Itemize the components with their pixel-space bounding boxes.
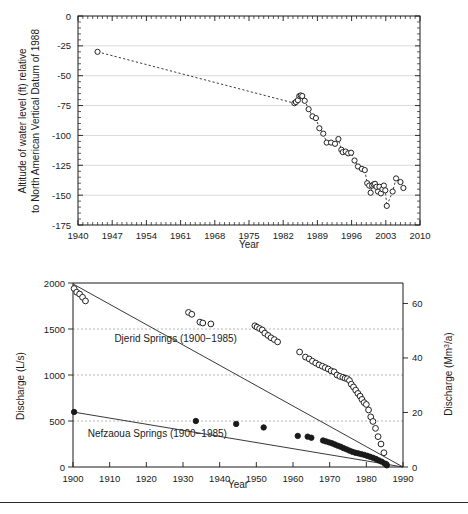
x-tick-label: 1954 bbox=[136, 230, 157, 241]
data-point-marker bbox=[373, 425, 379, 431]
gridlines-horizontal bbox=[78, 46, 420, 195]
x-tick-label: 1900 bbox=[62, 473, 83, 484]
data-point-marker bbox=[401, 185, 406, 190]
figure-container: 1940194719541961196819751982198919962003… bbox=[0, 0, 468, 514]
data-point-marker bbox=[368, 190, 373, 195]
y-tick-label-right: 40 bbox=[412, 352, 423, 363]
data-point-marker bbox=[189, 311, 195, 317]
y-tick-label: -125 bbox=[52, 160, 71, 171]
data-point-marker bbox=[295, 433, 300, 438]
y-tick-label-left: 0 bbox=[60, 462, 65, 473]
x-axis-ticks bbox=[73, 462, 403, 467]
data-point-marker bbox=[261, 425, 266, 430]
y-tick-label-left: 1500 bbox=[44, 324, 65, 335]
y-tick-label: -75 bbox=[57, 100, 71, 111]
bottom-divider-rule bbox=[0, 502, 468, 503]
y-axis-left-ticks bbox=[68, 283, 73, 467]
x-tick-label: 1961 bbox=[170, 230, 191, 241]
y-tick-label: -50 bbox=[57, 70, 71, 81]
data-point-marker bbox=[375, 434, 381, 440]
y-tick-label-right: 0 bbox=[412, 462, 417, 473]
data-point-marker bbox=[233, 421, 238, 426]
spring-discharge-svg: 1900191019201930194019501960197019801990… bbox=[0, 256, 468, 496]
y-tick-label: 0 bbox=[66, 11, 71, 22]
data-point-marker bbox=[366, 407, 372, 413]
y-axis-right-tick-labels: 0204060 bbox=[412, 298, 423, 473]
water-level-chart: 1940194719541961196819751982198919962003… bbox=[0, 0, 468, 256]
trend-lines bbox=[73, 284, 403, 467]
x-tick-label: 1920 bbox=[136, 473, 157, 484]
data-point-marker bbox=[352, 158, 357, 163]
data-point-marker bbox=[71, 409, 76, 414]
x-tick-label: 1980 bbox=[356, 473, 377, 484]
data-point-marker bbox=[297, 349, 303, 355]
y-axis-title-line2: to North American Vertical Datum of 1988 bbox=[30, 29, 41, 213]
data-point-marker bbox=[362, 167, 367, 172]
y-tick-labels: 0-25-50-75-100-125-150-175 bbox=[52, 11, 71, 231]
data-point-marker bbox=[306, 107, 311, 112]
x-tick-label: 1960 bbox=[282, 473, 303, 484]
data-point-marker bbox=[390, 189, 395, 194]
data-point-marker bbox=[336, 136, 341, 141]
x-tick-label: 1947 bbox=[102, 230, 123, 241]
series-connector-line bbox=[98, 52, 404, 206]
data-point-marker bbox=[384, 203, 389, 208]
series-annotation-label: Nefzaoua Springs (1900−1985) bbox=[88, 428, 227, 439]
x-tick-label: 1940 bbox=[67, 230, 88, 241]
x-tick-label: 2010 bbox=[409, 230, 430, 241]
spring-discharge-chart: 1900191019201930194019501960197019801990… bbox=[0, 256, 468, 496]
y-tick-label: -100 bbox=[52, 130, 71, 141]
data-point-marker bbox=[332, 141, 337, 146]
data-point-marker bbox=[381, 450, 387, 456]
data-point-marker bbox=[313, 116, 318, 121]
x-tick-label: 1989 bbox=[307, 230, 328, 241]
x-axis-title: Year bbox=[228, 479, 249, 490]
water-level-svg: 1940194719541961196819751982198919962003… bbox=[0, 0, 468, 256]
data-series-discharge bbox=[71, 286, 389, 468]
x-tick-label: 1910 bbox=[99, 473, 120, 484]
y-tick-label-left: 1000 bbox=[44, 370, 65, 381]
data-point-marker bbox=[398, 179, 403, 184]
data-point-marker bbox=[363, 402, 369, 408]
x-tick-label: 1950 bbox=[246, 473, 267, 484]
x-tick-label: 1930 bbox=[172, 473, 193, 484]
y-tick-label-left: 2000 bbox=[44, 278, 65, 289]
y-axis-left-tick-labels: 0500100015002000 bbox=[44, 278, 65, 473]
y-tick-label: -25 bbox=[57, 40, 71, 51]
data-point-marker bbox=[95, 49, 100, 54]
data-point-marker bbox=[200, 320, 206, 326]
y-tick-label: -175 bbox=[52, 220, 71, 231]
data-point-marker bbox=[370, 419, 376, 425]
data-point-marker bbox=[349, 150, 354, 155]
series-annotation-label: Djerid Springs (1900−1985) bbox=[114, 333, 237, 344]
x-tick-label: 1990 bbox=[392, 473, 413, 484]
x-tick-label: 1968 bbox=[204, 230, 225, 241]
data-point-marker bbox=[321, 131, 326, 136]
y-axis-right-title: Discharge (Mm3/a) bbox=[443, 332, 455, 415]
x-tick-label: 1982 bbox=[273, 230, 294, 241]
x-axis-title: Year bbox=[239, 239, 260, 250]
data-point-marker bbox=[393, 176, 398, 181]
data-point-marker bbox=[309, 435, 314, 440]
y-axis-right-ticks bbox=[403, 303, 408, 467]
y-tick-label: -150 bbox=[52, 190, 71, 201]
data-point-marker bbox=[384, 463, 389, 468]
data-point-marker bbox=[378, 441, 384, 447]
y-axis-left-title: Discharge (L/s) bbox=[15, 352, 26, 420]
data-point-marker bbox=[317, 126, 322, 131]
data-series-water-level bbox=[95, 49, 406, 208]
series-annotations: Djerid Springs (1900−1985)Nefzaoua Sprin… bbox=[88, 333, 237, 438]
data-point-marker bbox=[383, 188, 388, 193]
data-point-marker bbox=[193, 418, 198, 423]
x-tick-label: 2003 bbox=[375, 230, 396, 241]
data-point-marker bbox=[208, 321, 214, 327]
y-tick-label-right: 20 bbox=[412, 407, 423, 418]
y-tick-label-right: 60 bbox=[412, 298, 423, 309]
data-point-marker bbox=[83, 298, 89, 304]
x-tick-label: 1996 bbox=[341, 230, 362, 241]
data-point-marker bbox=[302, 98, 307, 103]
data-point-marker bbox=[275, 339, 281, 345]
y-tick-label-left: 500 bbox=[49, 416, 65, 427]
y-axis-title-line1: Altitude of water level (ft) relative bbox=[17, 48, 28, 193]
x-tick-label: 1970 bbox=[319, 473, 340, 484]
